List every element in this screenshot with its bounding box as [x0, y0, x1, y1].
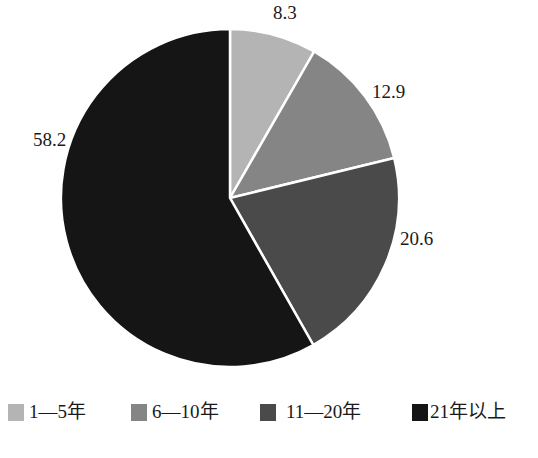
legend-swatch-black: [412, 404, 428, 421]
legend-swatch-mid-gray: [131, 404, 147, 421]
legend-item-1-5-years: 1—5年: [8, 400, 86, 424]
data-label-21-plus-years: 58.2: [33, 130, 66, 150]
legend-item-21-plus-years: 21年以上: [412, 400, 506, 424]
legend: 1—5年 6—10年 11—20年 21年以上: [0, 400, 538, 424]
data-label-6-10-years: 12.9: [372, 82, 405, 102]
legend-item-11-20-years: 11—20年: [260, 400, 361, 424]
pie-chart: [0, 0, 538, 458]
legend-label: 21年以上: [430, 401, 506, 423]
legend-item-6-10-years: 6—10年: [131, 400, 219, 424]
data-label-1-5-years: 8.3: [273, 3, 297, 23]
legend-swatch-light-gray: [8, 404, 24, 421]
legend-label: 11—20年: [286, 401, 361, 423]
legend-label: 1—5年: [29, 401, 86, 423]
legend-swatch-dark-gray: [260, 404, 276, 421]
data-label-11-20-years: 20.6: [400, 229, 433, 249]
legend-label: 6—10年: [152, 401, 219, 423]
